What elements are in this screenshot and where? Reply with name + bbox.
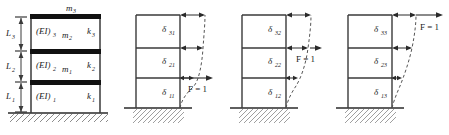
label-EI2: (EI) 2 bbox=[36, 60, 56, 72]
unit-load-label: F = 1 bbox=[420, 22, 439, 32]
m2-base: m bbox=[62, 30, 69, 40]
influence-2-svg: F = 1 δ 32 δ 22 δ 12 bbox=[218, 0, 324, 135]
deflected-shape bbox=[180, 15, 205, 108]
label-L2: L 2 bbox=[5, 61, 15, 73]
label-delta-22: δ 22 bbox=[268, 56, 281, 68]
label-delta-13: δ 13 bbox=[374, 87, 387, 99]
unit-load-label: F = 1 bbox=[188, 84, 207, 94]
unit-load-label: F = 1 bbox=[296, 54, 315, 64]
panel-unit-load-floor-1: F = 1 δ 31 δ 21 δ 11 bbox=[112, 0, 218, 135]
deflection-arrow-1 bbox=[285, 76, 298, 80]
d31-base: δ bbox=[162, 24, 167, 34]
label-k1: k 1 bbox=[87, 91, 95, 103]
deflection-arrow-3 bbox=[392, 13, 416, 18]
d22-base: δ bbox=[268, 56, 273, 66]
d22-sub: 22 bbox=[275, 62, 281, 68]
label-delta-12: δ 12 bbox=[268, 87, 281, 99]
label-k2: k 2 bbox=[87, 60, 95, 72]
beam-level-2 bbox=[30, 49, 101, 54]
deflection-arrow-3 bbox=[180, 13, 205, 18]
L3-base: L bbox=[5, 28, 11, 38]
k3-sub: 3 bbox=[91, 32, 95, 38]
d11-sub: 11 bbox=[169, 93, 175, 99]
label-delta-11: δ 11 bbox=[162, 87, 175, 99]
L1-base: L bbox=[5, 91, 11, 101]
label-delta-32: δ 32 bbox=[268, 24, 281, 36]
L1-sub: 1 bbox=[12, 97, 15, 103]
label-L3: L 3 bbox=[5, 28, 15, 40]
EI2-sub: 2 bbox=[53, 66, 56, 72]
dimension-stack bbox=[15, 17, 27, 112]
panel-property-frame: m 3 bbox=[0, 0, 112, 135]
d11-base: δ bbox=[162, 87, 167, 97]
k2-sub: 2 bbox=[92, 66, 95, 72]
d32-base: δ bbox=[268, 24, 273, 34]
d21-base: δ bbox=[162, 56, 167, 66]
figure-root: m 3 bbox=[0, 0, 449, 135]
d31-sub: 31 bbox=[168, 30, 175, 36]
label-delta-21: δ 21 bbox=[162, 56, 175, 68]
d13-base: δ bbox=[374, 87, 379, 97]
d23-base: δ bbox=[374, 56, 379, 66]
ground-support bbox=[230, 108, 298, 123]
ground-support bbox=[336, 108, 404, 123]
L2-sub: 2 bbox=[12, 67, 15, 73]
EI2-base: (EI) bbox=[36, 60, 51, 70]
d32-sub: 32 bbox=[274, 30, 281, 36]
ground-support bbox=[8, 113, 108, 122]
label-m1: m 1 bbox=[62, 64, 72, 75]
d33-sub: 33 bbox=[380, 30, 387, 36]
unit-load-arrow bbox=[416, 12, 443, 18]
label-EI1: (EI) 1 bbox=[36, 91, 56, 103]
EI3-sub: 3 bbox=[52, 32, 56, 38]
m1-sub: 1 bbox=[69, 69, 72, 75]
label-EI3: (EI) 3 bbox=[36, 26, 56, 38]
beam-level-3 bbox=[30, 14, 101, 19]
ground-support bbox=[124, 108, 192, 124]
label-m2: m 2 bbox=[62, 30, 72, 41]
influence-3-svg: F = 1 δ 33 δ 23 δ 13 bbox=[324, 0, 449, 135]
label-delta-31: δ 31 bbox=[162, 24, 175, 36]
panel-unit-load-floor-2: F = 1 δ 32 δ 22 δ 12 bbox=[218, 0, 324, 135]
deflection-arrow-3 bbox=[286, 13, 311, 18]
beam-level-1 bbox=[30, 80, 101, 85]
L2-base: L bbox=[5, 61, 11, 71]
EI3-base: (EI) bbox=[36, 26, 51, 36]
L3-sub: 3 bbox=[11, 34, 15, 40]
property-frame-svg: m 3 bbox=[0, 0, 112, 135]
EI1-base: (EI) bbox=[36, 91, 51, 101]
m1-base: m bbox=[62, 64, 69, 74]
label-top-mass: m 3 bbox=[66, 3, 76, 14]
deflection-arrow-2 bbox=[392, 46, 412, 51]
label-delta-33: δ 33 bbox=[374, 24, 387, 36]
top-mass-sub: 3 bbox=[72, 8, 76, 14]
d33-base: δ bbox=[374, 24, 379, 34]
d12-sub: 12 bbox=[275, 93, 281, 99]
k1-sub: 1 bbox=[92, 97, 95, 103]
deflection-arrow-2 bbox=[286, 46, 308, 51]
d23-sub: 23 bbox=[381, 62, 387, 68]
label-L1: L 1 bbox=[5, 91, 15, 103]
d13-sub: 13 bbox=[381, 93, 387, 99]
deflection-arrow-2 bbox=[180, 46, 203, 51]
panel-unit-load-floor-3: F = 1 δ 33 δ 23 δ 13 bbox=[324, 0, 449, 135]
label-delta-23: δ 23 bbox=[374, 56, 387, 68]
d21-sub: 21 bbox=[169, 62, 175, 68]
EI1-sub: 1 bbox=[53, 97, 56, 103]
influence-1-svg: F = 1 δ 31 δ 21 δ 11 bbox=[112, 0, 218, 135]
deflected-shape bbox=[392, 15, 416, 108]
m2-sub: 2 bbox=[69, 35, 72, 41]
d12-base: δ bbox=[268, 87, 273, 97]
unit-load-arrow bbox=[310, 45, 322, 51]
label-k3: k 3 bbox=[87, 26, 95, 38]
top-mass-base: m bbox=[66, 3, 73, 13]
